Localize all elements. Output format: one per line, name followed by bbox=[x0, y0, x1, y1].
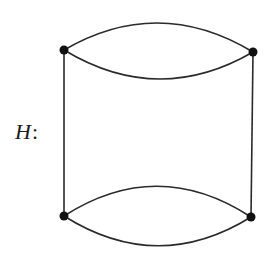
graph-edges bbox=[64, 23, 253, 246]
edge-v1-v2-arc-up bbox=[64, 23, 253, 52]
vertex-v2 bbox=[249, 48, 258, 57]
graph-label-colon: : bbox=[32, 119, 38, 144]
graph-vertices bbox=[60, 46, 258, 222]
graph-label: H: bbox=[15, 119, 38, 145]
edge-v1-v2-arc-down bbox=[64, 50, 253, 79]
edge-v2-v4-line bbox=[251, 52, 253, 217]
graph-name: H bbox=[15, 119, 31, 144]
edge-v3-v4-arc-down bbox=[64, 216, 251, 246]
edge-v3-v4-arc-up bbox=[64, 186, 251, 217]
vertex-v1 bbox=[60, 46, 69, 55]
graph-canvas bbox=[0, 0, 269, 258]
vertex-v4 bbox=[247, 213, 256, 222]
vertex-v3 bbox=[60, 212, 69, 221]
